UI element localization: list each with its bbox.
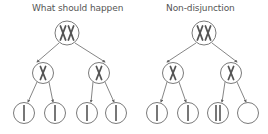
arrow bbox=[222, 82, 225, 102]
parent-cell bbox=[55, 21, 79, 45]
arrow bbox=[49, 82, 53, 102]
arrow bbox=[37, 43, 59, 62]
arrow bbox=[167, 43, 196, 62]
arrow bbox=[75, 43, 105, 62]
arrow bbox=[91, 82, 93, 102]
arrow bbox=[161, 82, 167, 102]
gamete-cell bbox=[238, 103, 259, 124]
parent-cell bbox=[192, 21, 216, 45]
arrow bbox=[237, 82, 246, 102]
meiosis-diagram bbox=[0, 0, 268, 134]
arrow bbox=[28, 82, 37, 102]
arrow bbox=[179, 82, 186, 102]
arrow bbox=[212, 43, 237, 62]
gamete-cell bbox=[208, 103, 229, 124]
arrow bbox=[105, 82, 114, 102]
